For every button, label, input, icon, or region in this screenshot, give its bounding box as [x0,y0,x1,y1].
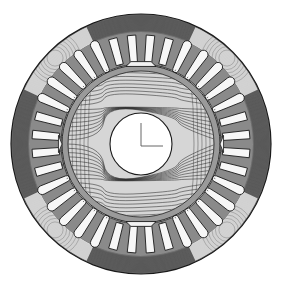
top-pole [126,62,156,67]
motor-cross-section-diagram [0,0,281,285]
motor-flux-plot: Finite-element magnetic flux line plot o… [0,0,281,285]
bottom-pole [126,222,156,227]
